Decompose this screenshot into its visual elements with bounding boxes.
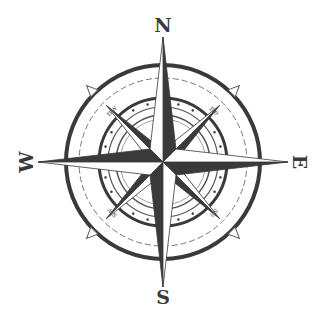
compass-rose: nw ne se sw N E S W: [0, 0, 322, 331]
cardinal-points: [38, 37, 288, 287]
label-north: N: [154, 14, 171, 36]
label-east: E: [289, 155, 311, 169]
label-west: W: [15, 151, 37, 174]
label-south: S: [156, 286, 170, 308]
